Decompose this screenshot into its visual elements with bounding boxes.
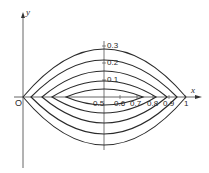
x-tick-label-0.6: 0.6	[114, 100, 125, 108]
x-tick-label-1: 1	[184, 100, 188, 108]
lens-contour-diagram: y x O 0.3 0.2 0.1 0.5 0.6 0.7 0.8 0.9 1	[0, 0, 209, 173]
x-axis-label: x	[191, 86, 195, 94]
x-tick-label-0.9: 0.9	[163, 100, 174, 108]
x-tick-label-0.5: 0.5	[93, 100, 104, 108]
y-axis-label: y	[26, 8, 30, 16]
x-tick-label-0.7: 0.7	[130, 100, 141, 108]
origin-label: O	[15, 99, 22, 107]
y-axis-arrow-icon	[21, 12, 25, 18]
x-tick-label-0.8: 0.8	[147, 100, 158, 108]
y-tick-label-0.1: 0.1	[107, 76, 118, 84]
diagram-canvas	[0, 0, 209, 173]
x-axis-arrow-icon	[195, 95, 202, 99]
y-tick-label-0.2: 0.2	[107, 59, 118, 67]
y-tick-label-0.3: 0.3	[107, 42, 118, 50]
